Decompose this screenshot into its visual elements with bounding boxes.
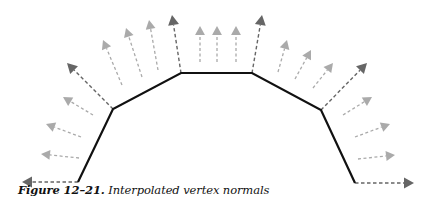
interpolated-normal-shaft [358, 156, 386, 159]
vertex-normal-shaft [74, 70, 113, 109]
caption-label: Figure 12–21. [18, 183, 105, 197]
interpolated-normal-shaft [107, 48, 122, 85]
interpolated-normal-shaft [313, 70, 327, 88]
interpolated-normal-shaft [129, 37, 142, 77]
figure-caption: Figure 12–21. Interpolated vertex normal… [18, 183, 269, 197]
surface-polyline [78, 73, 355, 183]
vertex-normal-arrowhead-icon [356, 63, 367, 74]
interpolated-normal-shaft [295, 58, 307, 79]
vertex-normal-shaft [321, 70, 360, 110]
vertex-normal-arrowhead-icon [67, 63, 78, 74]
interpolated-normal-arrowhead-icon [212, 26, 222, 35]
caption-text: Interpolated vertex normals [105, 183, 270, 197]
vertex-normal-shaft [174, 25, 181, 73]
interpolated-normal-shaft [71, 102, 93, 115]
interpolated-normal-shaft [50, 155, 79, 158]
figure-canvas: Figure 12–21. Interpolated vertex normal… [0, 0, 435, 200]
interpolated-normal-arrowhead-icon [386, 151, 395, 161]
interpolated-normal-arrowhead-icon [362, 97, 372, 106]
interpolated-normal-shaft [355, 127, 382, 137]
vertex-normal-arrowhead-icon [404, 178, 414, 189]
vertex-normal-arrowhead-icon [168, 15, 179, 26]
vertex-normals [22, 15, 414, 189]
interpolated-normal-arrowhead-icon [41, 150, 50, 160]
interpolated-normal-arrowhead-icon [63, 97, 73, 106]
interpolated-normal-arrowhead-icon [324, 63, 333, 73]
interpolated-normal-shaft [151, 29, 158, 70]
vertex-normal-shaft [252, 25, 260, 73]
vertex-normals-diagram [0, 0, 435, 200]
interpolated-normal-shaft [278, 49, 285, 72]
interpolated-normal-arrowhead-icon [195, 26, 205, 35]
interpolated-normal-arrowhead-icon [146, 20, 156, 30]
interpolated-normal-shaft [54, 127, 81, 137]
interpolated-normal-arrowhead-icon [231, 26, 241, 35]
interpolated-normal-shaft [343, 102, 364, 115]
vertex-normal-arrowhead-icon [255, 15, 266, 26]
interpolated-normal-arrowhead-icon [124, 28, 133, 38]
interpolated-normal-arrowhead-icon [280, 40, 290, 50]
